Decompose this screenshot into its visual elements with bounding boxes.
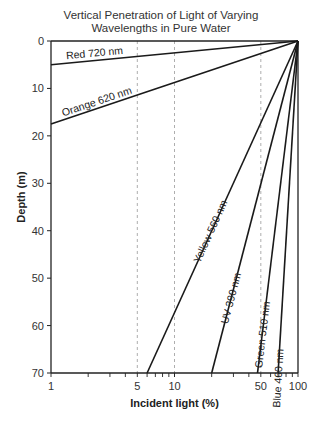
y-tick-label: 30 [32, 177, 44, 189]
chart-container: Vertical Penetration of Light of Varying… [0, 0, 322, 422]
y-tick-label: 10 [32, 82, 44, 94]
x-tick-label: 1 [48, 380, 54, 392]
series-label: Blue 460 nm [270, 348, 286, 408]
y-tick-label: 40 [32, 225, 44, 237]
y-tick-label: 60 [32, 320, 44, 332]
y-axis-title: Depth (m) [15, 171, 27, 223]
y-tick-label: 0 [38, 35, 44, 47]
series-label: Green 510 nm [252, 300, 272, 368]
x-tick-label: 10 [168, 380, 180, 392]
series-label: Orange 620 nm [60, 84, 133, 119]
x-tick-label: 50 [255, 380, 267, 392]
x-tick-label: 5 [134, 380, 140, 392]
y-tick-label: 70 [32, 367, 44, 379]
series-label: Yellow 560 nm [191, 198, 230, 265]
x-tick-label: 100 [289, 380, 307, 392]
chart-plot: 010203040506070151050100Incident light (… [0, 0, 322, 422]
series-label: UV 390 nm [218, 271, 243, 325]
y-tick-label: 20 [32, 130, 44, 142]
y-tick-label: 50 [32, 272, 44, 284]
x-axis-title: Incident light (%) [130, 397, 219, 409]
series-line-blue [278, 41, 298, 373]
